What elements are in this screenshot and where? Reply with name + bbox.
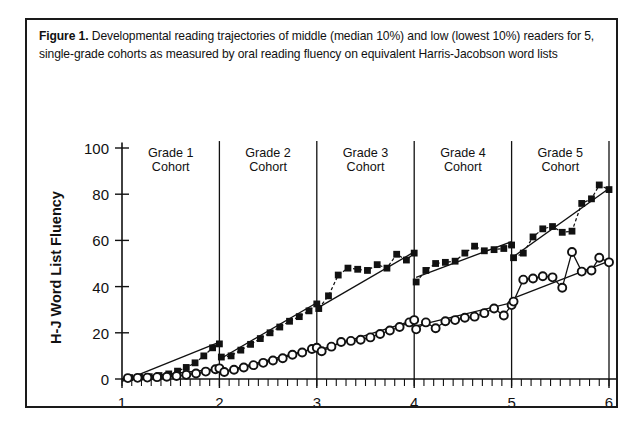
cohort-label-line1: Grade 5: [538, 146, 584, 160]
data-point-middle-readers: [578, 200, 585, 207]
data-point-low-readers: [318, 347, 326, 355]
x-axis-tick-label: 2: [215, 394, 223, 406]
data-point-middle-readers: [491, 246, 498, 253]
data-point-middle-readers: [209, 344, 216, 351]
data-point-middle-readers: [335, 272, 342, 279]
data-point-middle-readers: [315, 305, 322, 312]
reading-trajectories-chart: 020406080100H-J Word List Fluency123456G…: [27, 98, 616, 406]
data-point-low-readers: [396, 323, 404, 331]
y-axis-tick-label: 40: [92, 279, 109, 296]
data-point-low-readers: [422, 318, 430, 326]
data-point-low-readers: [347, 337, 355, 345]
data-point-low-readers: [432, 324, 440, 332]
data-point-low-readers: [220, 368, 228, 376]
data-point-middle-readers: [403, 257, 410, 264]
data-point-low-readers: [471, 313, 479, 321]
data-point-middle-readers: [539, 225, 546, 232]
data-point-low-readers: [249, 361, 257, 369]
data-point-middle-readers: [520, 250, 527, 257]
x-axis-tick-label: 6: [605, 394, 613, 406]
data-point-low-readers: [500, 311, 508, 319]
data-point-middle-readers: [530, 234, 537, 241]
data-point-middle-readers: [325, 292, 332, 299]
data-point-low-readers: [519, 276, 527, 284]
data-point-middle-readers: [345, 265, 352, 272]
data-point-middle-readers: [413, 279, 420, 286]
cohort-label-line2: Cohort: [152, 160, 190, 174]
data-point-middle-readers: [306, 307, 313, 314]
cohort-label-line2: Cohort: [444, 160, 482, 174]
data-point-middle-readers: [559, 229, 566, 236]
cohort-label-line1: Grade 2: [245, 146, 291, 160]
data-point-middle-readers: [216, 340, 223, 347]
data-point-low-readers: [451, 316, 459, 324]
data-point-middle-readers: [411, 250, 418, 257]
data-point-low-readers: [558, 284, 566, 292]
data-point-low-readers: [480, 309, 488, 317]
data-point-middle-readers: [393, 251, 400, 258]
cohort-trend-line: [319, 252, 414, 307]
data-point-low-readers: [182, 371, 190, 379]
figure-number: Figure 1.: [39, 29, 89, 43]
data-point-middle-readers: [200, 353, 207, 360]
data-point-low-readers: [410, 316, 418, 324]
data-point-middle-readers: [500, 245, 507, 252]
data-point-middle-readers: [192, 359, 199, 366]
data-point-middle-readers: [257, 335, 264, 342]
data-point-low-readers: [549, 273, 557, 281]
data-point-low-readers: [578, 268, 586, 276]
cohort-label-line1: Grade 3: [343, 146, 389, 160]
series-connector-middle: [319, 253, 415, 308]
data-point-low-readers: [357, 336, 365, 344]
x-axis-tick-label: 3: [313, 394, 321, 406]
data-point-middle-readers: [267, 329, 274, 336]
data-point-middle-readers: [461, 250, 468, 257]
data-point-middle-readers: [606, 186, 613, 193]
data-point-low-readers: [376, 330, 384, 338]
data-point-middle-readers: [364, 267, 371, 274]
cohort-label-line2: Cohort: [249, 160, 287, 174]
data-point-middle-readers: [432, 260, 439, 267]
y-axis-tick-label: 60: [92, 232, 109, 249]
data-point-middle-readers: [183, 364, 190, 371]
cohort-label-line1: Grade 1: [148, 146, 194, 160]
data-point-low-readers: [298, 348, 306, 356]
data-point-low-readers: [412, 325, 420, 333]
data-point-low-readers: [192, 369, 200, 377]
data-point-middle-readers: [354, 266, 361, 273]
data-point-low-readers: [605, 258, 613, 266]
data-point-middle-readers: [296, 313, 303, 320]
data-point-low-readers: [143, 374, 151, 382]
y-axis-tick-label: 0: [101, 371, 109, 388]
data-point-middle-readers: [596, 182, 603, 189]
x-axis-tick-label: 1: [118, 394, 126, 406]
data-point-middle-readers: [452, 258, 459, 265]
data-point-low-readers: [539, 272, 547, 280]
chart-plot-area: 020406080100H-J Word List Fluency123456G…: [27, 98, 616, 406]
data-point-middle-readers: [442, 259, 449, 266]
data-point-low-readers: [461, 314, 469, 322]
data-point-low-readers: [153, 373, 161, 381]
data-point-middle-readers: [247, 341, 254, 348]
data-point-low-readers: [288, 351, 296, 359]
data-point-low-readers: [163, 373, 171, 381]
data-point-middle-readers: [384, 265, 391, 272]
data-point-middle-readers: [218, 354, 225, 361]
data-point-middle-readers: [286, 318, 293, 325]
data-point-middle-readers: [422, 267, 429, 274]
y-axis-tick-label: 100: [84, 140, 109, 157]
data-point-middle-readers: [228, 353, 235, 360]
data-point-low-readers: [202, 368, 210, 376]
data-point-middle-readers: [374, 261, 381, 268]
data-point-low-readers: [386, 326, 394, 334]
data-point-middle-readers: [510, 254, 517, 261]
data-point-middle-readers: [549, 223, 556, 230]
y-axis-title: H-J Word List Fluency: [48, 191, 64, 344]
y-axis-tick-label: 20: [92, 325, 109, 342]
figure-caption: Figure 1. Developmental reading trajecto…: [39, 28, 607, 63]
data-point-low-readers: [240, 363, 248, 371]
cohort-label-line1: Grade 4: [440, 146, 486, 160]
data-point-middle-readers: [481, 247, 488, 254]
data-point-low-readers: [568, 248, 576, 256]
data-point-low-readers: [529, 275, 537, 283]
